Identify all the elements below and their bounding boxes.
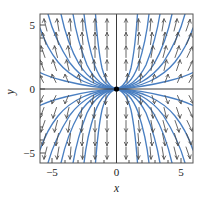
equilibrium-point (114, 86, 119, 91)
phase-portrait-figure: 5 0 −5 −5 0 5 x y (0, 0, 206, 203)
y-tick-label-minus5: −5 (23, 147, 35, 159)
x-tick-label-5: 5 (178, 166, 184, 178)
plot-canvas: 5 0 −5 −5 0 5 x y (0, 0, 206, 203)
x-axis-title: x (113, 182, 120, 194)
y-tick-label-0: 0 (30, 83, 36, 95)
y-tick-label-5: 5 (30, 19, 36, 31)
y-axis-title: y (4, 89, 17, 96)
x-tick-label-0: 0 (114, 166, 120, 178)
x-tick-label-minus5: −5 (46, 166, 58, 178)
